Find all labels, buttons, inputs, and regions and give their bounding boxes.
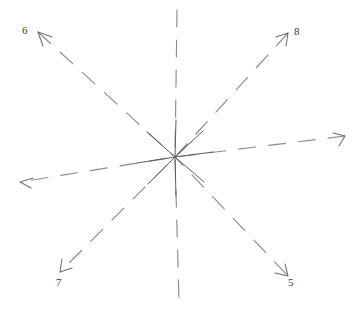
ray-diagonal-8-7	[60, 33, 288, 272]
arrowhead-right-icon	[333, 133, 345, 146]
ray-horizontal	[20, 136, 345, 182]
ray-diagonal-6-5	[38, 32, 288, 276]
axis-label-8: 8	[294, 26, 300, 37]
arrowhead-group	[20, 32, 345, 276]
figure-canvas: 6 8 7 5	[0, 0, 360, 309]
arrowhead-left-icon	[20, 178, 33, 188]
axis-label-6: 6	[22, 25, 28, 36]
radial-axes-svg	[0, 0, 360, 309]
axis-label-7: 7	[56, 277, 62, 288]
dashed-ray-group	[20, 10, 345, 300]
axis-label-5: 5	[288, 277, 294, 288]
arrowhead-7-icon	[60, 259, 72, 272]
